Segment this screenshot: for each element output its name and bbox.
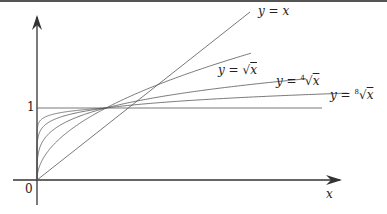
label-y-eq-sqrt-x: y = √x — [218, 63, 257, 77]
origin-label: 0 — [25, 182, 33, 196]
label-y-eq-4th-root-x: y = 4√x — [276, 74, 319, 88]
root-functions-plot — [0, 0, 387, 214]
curve-y-eq-x — [37, 12, 250, 180]
label-y-eq-8th-root-x: y = 8√x — [330, 88, 373, 102]
label-y-eq-x: y = x — [258, 4, 289, 18]
x-axis-label: x — [326, 187, 333, 201]
curve-root-0.25 — [37, 79, 306, 180]
tick-label-one: 1 — [27, 100, 35, 114]
curve-root-0.0625 — [37, 108, 106, 180]
curve-root-0.125 — [37, 93, 348, 180]
